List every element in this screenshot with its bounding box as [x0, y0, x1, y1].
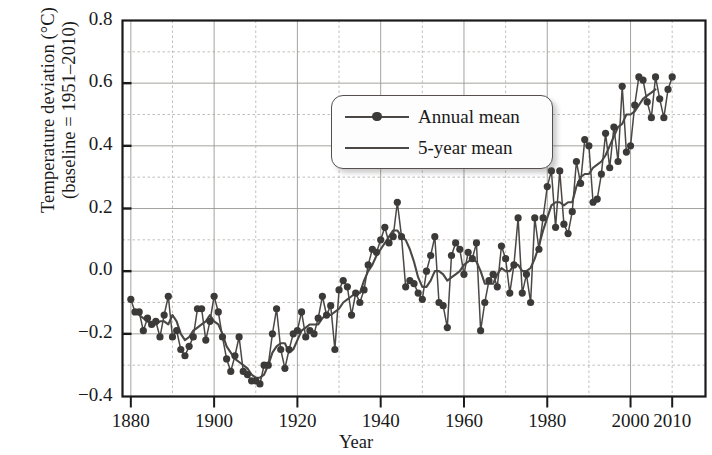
legend-line-icon: [345, 141, 409, 155]
chart-legend: Annual mean 5-year mean: [331, 95, 553, 169]
x-axis-label: Year: [0, 432, 712, 453]
y-tick-label: 0.2: [51, 196, 113, 218]
chart-figure: Temperature deviation (°C) (baseline = 1…: [0, 0, 712, 455]
x-tick-label: 1920: [267, 410, 327, 432]
legend-label-5-year-mean: 5-year mean: [418, 137, 512, 159]
legend-marker-line-icon: [345, 110, 409, 124]
y-tick-label: −0.4: [51, 384, 113, 406]
y-tick-label: −0.2: [51, 321, 113, 343]
y-axis-label-line-2: (baseline = 1951–2010): [59, 21, 80, 199]
legend-item-5-year-mean: 5-year mean: [345, 134, 552, 161]
x-tick-label: 1980: [517, 410, 577, 432]
x-tick-label: 1880: [101, 410, 161, 432]
y-tick-label: 0.8: [51, 8, 113, 30]
y-tick-label: 0.6: [51, 70, 113, 92]
y-tick-label: 0.4: [51, 133, 113, 155]
x-tick-label: 1960: [434, 410, 494, 432]
legend-item-annual-mean: Annual mean: [345, 103, 552, 130]
y-axis-label-line-1: Temperature deviation (°C): [38, 7, 59, 213]
y-tick-label: 0.0: [51, 258, 113, 280]
x-tick-label: 1940: [351, 410, 411, 432]
legend-label-annual-mean: Annual mean: [418, 106, 520, 128]
x-tick-label: 1900: [184, 410, 244, 432]
x-tick-label: 2010: [642, 410, 702, 432]
